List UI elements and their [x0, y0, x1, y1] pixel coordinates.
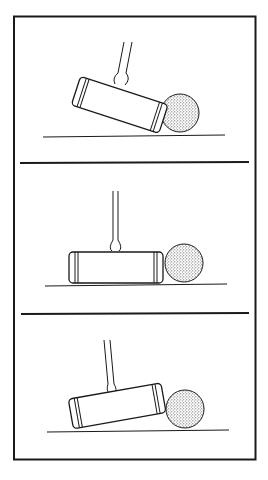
croquet-ball — [166, 390, 204, 428]
croquet-ball — [165, 244, 203, 282]
panel-middle — [45, 191, 227, 286]
mallet-handle — [110, 191, 121, 251]
mallet-head — [71, 76, 168, 133]
mallet-head — [69, 252, 163, 283]
mallet-handle — [104, 340, 116, 393]
panel-bottom — [47, 340, 229, 432]
ground-line — [45, 284, 227, 286]
croquet-ball — [161, 94, 199, 132]
panel-divider — [21, 313, 249, 314]
mallet-head — [68, 383, 166, 429]
mallet-handle — [114, 42, 132, 85]
croquet-mallet-diagram — [0, 0, 268, 480]
ground-line — [47, 430, 229, 432]
panel-divider — [20, 162, 249, 163]
panel-top — [43, 42, 225, 137]
ground-line — [43, 135, 225, 137]
